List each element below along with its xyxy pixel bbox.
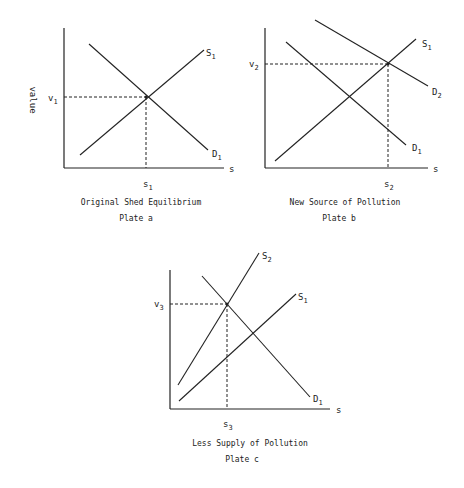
s2-label: s2 xyxy=(384,179,394,192)
supply-curve-s1 xyxy=(80,50,204,155)
supply-demand-diagram: value s v1 s1 S1 D1 Original Shed Equili… xyxy=(0,0,464,488)
equilibrium-point xyxy=(226,303,229,306)
y-axis-label: value xyxy=(28,86,38,113)
x-axis-symbol: s xyxy=(336,405,341,415)
curve-label-d1: D1 xyxy=(412,143,422,156)
demand-curve-d1 xyxy=(202,276,310,397)
curve-label-d2: D2 xyxy=(432,87,442,100)
curve-label-s1: S1 xyxy=(422,39,432,52)
supply-curve-s1 xyxy=(179,294,296,401)
v2-label: v2 xyxy=(249,59,259,72)
plate-c: s v3 s3 S2 S1 D1 Less Supply of Pollutio… xyxy=(154,251,341,464)
plate-b: s v2 s2 S1 D2 D1 New Source of Pollution… xyxy=(249,20,442,223)
x-axis-symbol: s xyxy=(229,164,234,174)
plate-c-label: Plate c xyxy=(225,455,259,464)
curve-label-s1: S1 xyxy=(298,292,308,305)
plate-a-caption: Original Shed Equilibrium xyxy=(81,198,202,207)
plate-b-label: Plate b xyxy=(322,214,356,223)
equilibrium-point xyxy=(387,63,390,66)
s1-label: s1 xyxy=(143,179,153,192)
curve-label-s1: S1 xyxy=(206,48,216,61)
x-axis-symbol: s xyxy=(433,164,438,174)
curve-label-d1: D1 xyxy=(313,394,323,407)
s3-label: s3 xyxy=(223,419,233,432)
v1-label: v1 xyxy=(48,93,58,106)
curve-label-s2: S2 xyxy=(262,251,272,264)
equilibrium-point xyxy=(145,96,148,99)
curve-label-d1: D1 xyxy=(212,149,222,162)
plate-a: value s v1 s1 S1 D1 Original Shed Equili… xyxy=(28,28,234,223)
demand-curve-d2 xyxy=(315,20,428,86)
v3-label: v3 xyxy=(154,299,164,312)
plate-c-caption: Less Supply of Pollution xyxy=(192,439,308,448)
plate-b-caption: New Source of Pollution xyxy=(290,198,401,207)
plate-a-label: Plate a xyxy=(119,214,153,223)
supply-curve-s1 xyxy=(275,39,416,161)
